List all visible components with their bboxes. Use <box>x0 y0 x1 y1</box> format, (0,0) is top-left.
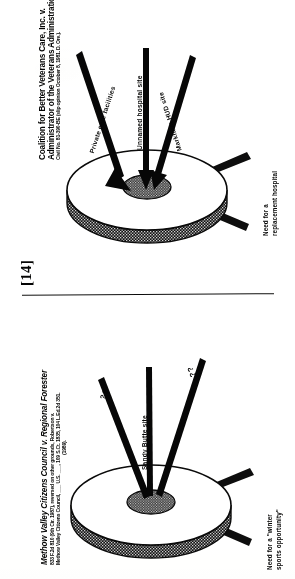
arrow-label-sandy-butte-site: Sandy Butte site <box>141 415 149 470</box>
case-citation: Civil No. 81-390-BE (slip opinion Octobe… <box>55 32 61 160</box>
page-marker: [14] <box>18 260 35 286</box>
side-label-bottom-line-2: sports opportunity" <box>275 509 283 570</box>
case-citation-line-2: Methow Valley Citizens Council, ___ U.S.… <box>55 393 61 565</box>
scanned-page: Coalition for Better Veterans Care, Inc.… <box>0 0 295 579</box>
side-label-line-2: replacement hospital <box>271 171 279 236</box>
side-label-bottom-line-1: Need for a "winter <box>266 514 274 570</box>
arrow-label-unnamed-hospital-site: Unnamed hospital site <box>136 75 144 150</box>
side-label-line-1: Need for a <box>262 204 270 236</box>
figure-methow-valley: Methow Valley Citizens Council v. Region… <box>0 290 295 579</box>
case-citation-line-3: (1989). <box>61 440 67 455</box>
figure-coalition-veterans-care: Coalition for Better Veterans Care, Inc.… <box>0 0 295 290</box>
